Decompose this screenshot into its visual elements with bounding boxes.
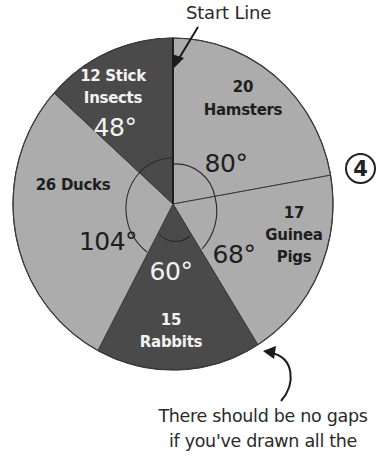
svg-text:Pigs: Pigs [277,248,312,266]
question-number-badge: 4 [345,153,376,184]
svg-text:15: 15 [161,311,181,329]
svg-text:26 Ducks: 26 Ducks [36,176,111,194]
svg-text:Insects: Insects [84,89,143,107]
svg-text:17: 17 [284,204,304,222]
svg-text:Guinea: Guinea [265,226,322,244]
annotation-note: There should be no gaps if you've drawn … [140,404,386,454]
svg-text:48°: 48° [94,113,137,142]
curved-arrow-icon [263,346,291,401]
note-line-2: if you've drawn all the [140,429,386,454]
svg-text:80°: 80° [205,149,248,178]
note-line-1: There should be no gaps [140,404,386,429]
svg-text:60°: 60° [150,257,193,286]
svg-text:12 Stick: 12 Stick [80,67,147,85]
svg-text:68°: 68° [213,240,256,269]
svg-text:104°: 104° [79,227,137,256]
pie-chart: 12 Stick Insects 48° 20 Hamsters 80° 17 … [0,0,386,466]
question-number: 4 [353,157,368,181]
svg-text:Rabbits: Rabbits [140,333,203,351]
svg-text:Hamsters: Hamsters [204,101,283,119]
start-line-label: Start Line [186,2,271,23]
svg-text:20: 20 [233,78,253,96]
